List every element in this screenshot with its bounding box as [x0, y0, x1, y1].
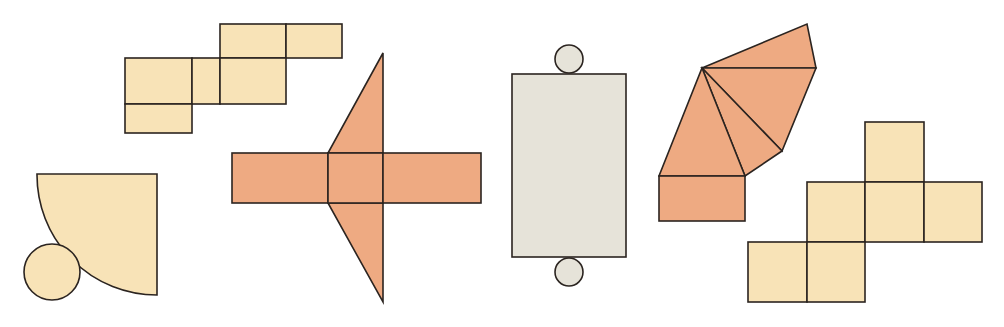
- prism-face: [383, 153, 481, 203]
- prism-face: [232, 153, 328, 203]
- net-face: [220, 24, 286, 58]
- cylinder-top-circle: [555, 45, 583, 73]
- cube-face: [807, 242, 865, 302]
- cone-base-circle: [24, 244, 80, 300]
- pyramid-net: [659, 24, 816, 221]
- rect-prism-net: [125, 24, 342, 133]
- pyramid-base: [659, 176, 745, 221]
- cylinder-bottom-circle: [555, 258, 583, 286]
- pyramid-face: [702, 24, 816, 68]
- cube-face: [807, 182, 865, 242]
- cube-face: [865, 122, 924, 182]
- cube-face: [924, 182, 982, 242]
- prism-face: [328, 153, 383, 203]
- net-face: [286, 24, 342, 58]
- cylinder-lateral-face: [512, 74, 626, 257]
- prism-triangle-top: [328, 53, 383, 153]
- cylinder-net: [512, 45, 626, 286]
- nets-diagram: [0, 0, 1004, 327]
- net-face: [125, 104, 192, 133]
- net-face: [220, 58, 286, 104]
- cube-face: [748, 242, 807, 302]
- net-face: [125, 58, 192, 104]
- cone-net: [24, 174, 157, 300]
- prism-triangle-bottom: [328, 203, 383, 302]
- cube-face: [865, 182, 924, 242]
- net-face: [192, 58, 220, 104]
